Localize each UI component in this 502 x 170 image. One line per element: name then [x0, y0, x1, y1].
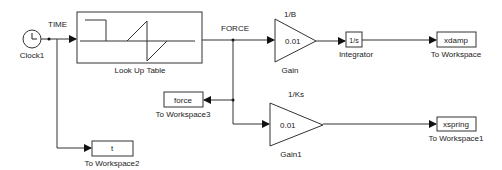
gain-param-label: 1/B: [284, 10, 296, 19]
to-workspace-var: xdamp: [444, 36, 468, 45]
lookup-table-block[interactable]: [77, 12, 202, 63]
gain-label: Gain: [282, 66, 299, 75]
clock-label: Clock1: [20, 51, 44, 60]
force-signal-label: FORCE: [221, 24, 249, 33]
gain1-block[interactable]: [270, 103, 323, 146]
gain1-label: Gain1: [280, 150, 301, 159]
gain1-value: 0.01: [280, 121, 296, 130]
time-signal-label: TIME: [48, 20, 67, 29]
to-workspace3-label: To Workspace3: [156, 110, 211, 119]
integrator-label: Integrator: [339, 50, 373, 59]
to-workspace1-var: xspring: [443, 120, 469, 129]
to-workspace-label: To Workspace: [431, 50, 482, 59]
to-workspace2-label: To Workspace2: [85, 159, 140, 168]
clock-block[interactable]: [23, 30, 41, 48]
gain-value: 0.01: [285, 37, 301, 46]
to-workspace1-label: To Workspace1: [429, 134, 484, 143]
to-workspace2-var: t: [111, 144, 113, 153]
gain1-param-label: 1/Ks: [288, 90, 304, 99]
to-workspace3-var: force: [174, 96, 192, 105]
junction-dot: [48, 38, 51, 41]
lookup-table-label: Look Up Table: [115, 66, 166, 75]
block-diagram-canvas: [0, 0, 502, 170]
integrator-value: 1/s: [349, 36, 358, 45]
